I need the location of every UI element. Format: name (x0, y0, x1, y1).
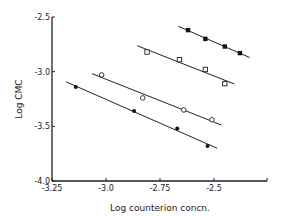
data-point-open-circle (210, 117, 215, 122)
data-point-filled-circle (206, 144, 210, 148)
data-point-filled-square (238, 51, 242, 55)
data-point-filled-circle (74, 85, 78, 89)
data-point-open-square (177, 57, 181, 61)
fit-line (92, 74, 222, 125)
data-point-filled-square (186, 28, 190, 32)
x-axis-title: Log counterion concn. (110, 203, 210, 213)
data-point-filled-square (203, 37, 207, 41)
data-point-open-circle (140, 96, 145, 101)
data-point-open-square (223, 81, 227, 85)
data-point-filled-circle (175, 127, 179, 131)
plot-area (66, 26, 250, 148)
y-tick-label: -3.5 (34, 122, 50, 131)
y-axis-title: Log CMC (14, 79, 24, 118)
data-point-open-circle (181, 108, 186, 113)
x-tick-label: -3.0 (98, 184, 114, 193)
y-tick-label: -3.0 (34, 68, 50, 77)
data-point-open-square (203, 67, 207, 71)
x-tick-label: -2.5 (206, 184, 222, 193)
axes: -2.5-3.0-3.5-4.0-3.25-3.0-2.75-2.5 (34, 13, 267, 193)
x-tick-label: -3.25 (42, 184, 63, 193)
data-point-filled-square (223, 44, 227, 48)
data-point-filled-circle (132, 109, 136, 113)
fit-line (66, 82, 217, 148)
y-tick-label: -2.5 (34, 13, 50, 22)
data-point-open-square (145, 50, 149, 54)
fit-line (137, 46, 234, 84)
data-point-open-circle (99, 73, 104, 78)
x-tick-label: -2.75 (150, 184, 171, 193)
chart: -2.5-3.0-3.5-4.0-3.25-3.0-2.75-2.5 Log c… (0, 0, 282, 217)
